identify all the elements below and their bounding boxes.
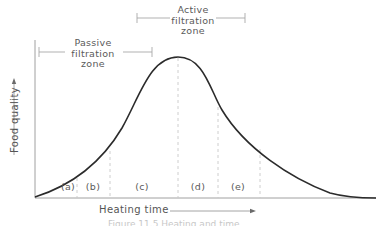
segment-label-d: (d) [191, 181, 205, 192]
x-axis-label: Heating time [99, 204, 169, 215]
segment-label-a: (a) [61, 181, 75, 192]
segment-label-b: (b) [86, 181, 100, 192]
segment-label-c: (c) [135, 181, 149, 192]
passive-filtration-zone-label: Passive filtration zone [58, 38, 128, 70]
x-axis-arrow-icon [170, 209, 256, 213]
active-filtration-zone-label: Active filtration zone [158, 5, 228, 37]
segment-label-e: (e) [231, 181, 245, 192]
y-axis-label: Food quality [9, 87, 20, 153]
figure-caption: Figure 11.5 Heating and time [108, 219, 240, 226]
food-quality-heating-diagram: Passive filtration zone Active filtratio… [0, 0, 388, 226]
segment-dividers [77, 58, 260, 198]
food-quality-curve [35, 57, 376, 198]
